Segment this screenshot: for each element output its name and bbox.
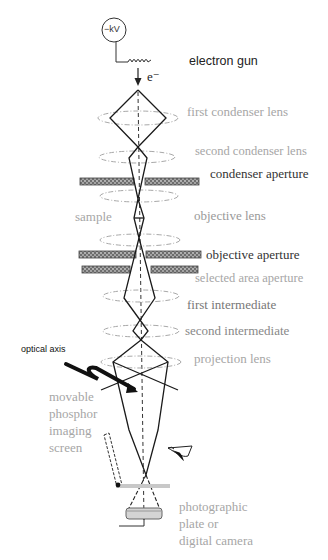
label-camera: photographic plate or digital camera — [179, 498, 253, 549]
label-projection-lens: projection lens — [194, 352, 271, 365]
electron-label: e⁻ — [147, 70, 160, 83]
label-condenser-aperture: condenser aperture — [210, 167, 309, 180]
label-selected-area-aperture: selected area aperture — [195, 272, 303, 285]
screen-pivot-icon — [116, 483, 121, 488]
filament-coil-icon — [128, 60, 151, 63]
electron-ray-paths — [101, 90, 178, 475]
imaging-screen-bar — [116, 484, 170, 488]
label-objective-aperture: objective aperture — [206, 248, 299, 261]
condenser-aperture-left — [80, 178, 134, 185]
selected-area-aperture-left — [82, 266, 130, 273]
voltage-label: −kV — [104, 25, 120, 34]
label-phosphor-screen: movable phosphor imaging screen — [49, 388, 97, 456]
label-objective-lens: objective lens — [194, 209, 266, 222]
label-second-condenser-lens: second condenser lens — [195, 145, 307, 158]
label-sample: sample — [75, 210, 112, 223]
movable-phosphor-screen — [104, 433, 170, 488]
condenser-aperture-right — [145, 178, 199, 185]
label-optical-axis: optical axis — [21, 345, 66, 354]
label-second-intermediate: second intermediate — [185, 324, 289, 337]
arrowhead-icon — [126, 383, 138, 393]
label-electron-gun: electron gun — [189, 55, 258, 68]
objective-aperture-right — [146, 251, 201, 258]
second-condenser-lens-ellipse — [99, 151, 175, 163]
selected-area-aperture-right — [151, 266, 198, 273]
eye-icon — [168, 446, 192, 461]
arrowhead-icon — [135, 78, 142, 86]
label-first-condenser-lens: first condenser lens — [187, 105, 288, 118]
label-first-intermediate: first intermediate — [187, 298, 276, 311]
photographic-plate — [119, 508, 162, 526]
objective-aperture-left — [79, 251, 136, 258]
voltage-wire — [116, 42, 128, 62]
